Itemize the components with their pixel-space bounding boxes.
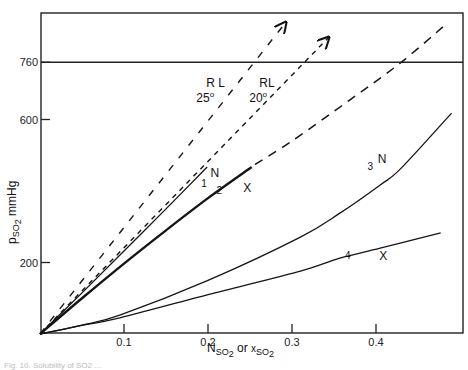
curve-tag-label: X [379, 249, 387, 263]
y-axis-ticks: 200600760 [20, 56, 50, 268]
figure-caption: Fig. 10. Solubility of SO2 ... [4, 361, 101, 370]
curve-rl-20 [40, 38, 328, 334]
curves [40, 23, 452, 334]
rl-label: RL [259, 76, 275, 90]
x-tick-label: 0.4 [368, 336, 383, 348]
curve-rl-25 [40, 23, 285, 334]
x-tick-label: 0.1 [116, 336, 131, 348]
curve-number-label: 2 [216, 185, 222, 196]
curve-3-n [40, 113, 452, 334]
temperature-label: 25o [196, 90, 214, 105]
curve-number-label: 4 [345, 250, 351, 261]
sulfur-dioxide-pressure-chart: 200600760 0.10.20.30.4 R L25oRL20o1N2X3N… [0, 0, 468, 370]
y-axis-title: pSO2 mmHg [5, 181, 23, 244]
rl-label: R L [206, 76, 225, 90]
curve-2-x-extrapolated [255, 25, 445, 164]
y-tick-label: 760 [20, 56, 38, 68]
y-tick-label: 600 [20, 114, 38, 126]
curve-number-label: 1 [201, 178, 207, 189]
plot-frame [41, 13, 463, 333]
curve-tag-label: N [378, 152, 387, 166]
curve-labels: R L25oRL20o1N2X3N4X [196, 76, 387, 262]
curve-number-label: 3 [368, 161, 374, 172]
curve-tag-label: N [211, 166, 220, 180]
x-axis-title: NSO2 or xSO2 [207, 341, 274, 359]
y-tick-label: 200 [20, 257, 38, 269]
curve-tag-label: X [243, 181, 251, 195]
curve-1-n [40, 167, 207, 334]
x-tick-label: 0.3 [284, 336, 299, 348]
